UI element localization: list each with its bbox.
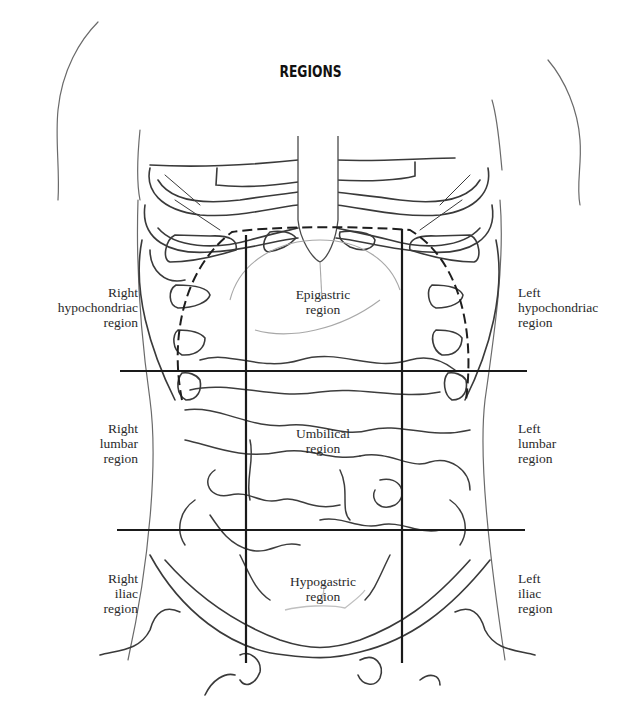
label-line: region [100, 451, 138, 466]
label-line: region [263, 441, 383, 456]
label-line: Epigastric [263, 287, 383, 302]
label-line: Hypogastric [263, 574, 383, 589]
torso-sketch [0, 0, 621, 727]
label-line: region [263, 589, 383, 604]
label-right-hypochondriac: Right hypochondriac region [58, 285, 138, 330]
label-line: region [518, 451, 556, 466]
label-line: Right [100, 421, 138, 436]
label-hypogastric: Hypogastric region [263, 574, 383, 604]
label-left-iliac: Left iliac region [518, 571, 553, 616]
label-line: Left [518, 571, 553, 586]
label-line: Right [58, 285, 138, 300]
label-epigastric: Epigastric region [263, 287, 383, 317]
body-outline [57, 22, 580, 660]
diagram-title: REGIONS [56, 63, 565, 81]
label-line: iliac [518, 586, 553, 601]
label-line: lumbar [100, 436, 138, 451]
label-line: Umbilical [263, 426, 383, 441]
label-left-lumbar: Left lumbar region [518, 421, 556, 466]
label-right-iliac: Right iliac region [104, 571, 139, 616]
sternum [298, 136, 338, 262]
intestines [180, 357, 470, 600]
label-line: hypochondriac [518, 300, 598, 315]
label-umbilical: Umbilical region [263, 426, 383, 456]
label-line: Left [518, 285, 598, 300]
abdominal-regions-diagram: REGIONS Right hypochondriac region Epiga… [0, 0, 621, 727]
label-line: region [518, 315, 598, 330]
label-line: Right [104, 571, 139, 586]
label-line: hypochondriac [58, 300, 138, 315]
label-line: lumbar [518, 436, 556, 451]
label-left-hypochondriac: Left hypochondriac region [518, 285, 598, 330]
label-line: region [263, 302, 383, 317]
label-line: iliac [104, 586, 139, 601]
label-right-lumbar: Right lumbar region [100, 421, 138, 466]
label-line: region [58, 315, 138, 330]
label-line: region [518, 601, 553, 616]
label-line: region [104, 601, 139, 616]
label-line: Left [518, 421, 556, 436]
